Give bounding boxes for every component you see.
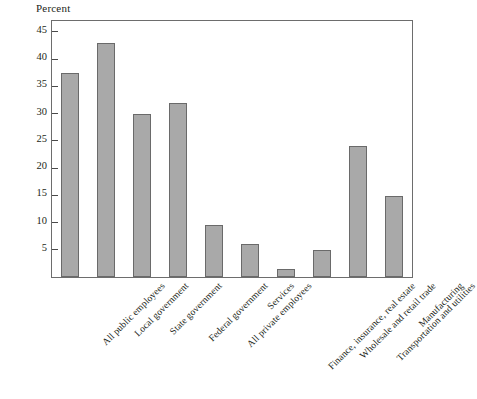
bar [241,244,259,277]
bar [205,225,223,277]
bar-slot [160,21,196,277]
bar [385,196,403,277]
bar-slot [376,21,412,277]
bar [61,73,79,277]
y-tick-label: 20 [37,160,48,171]
y-tick-label: 40 [37,51,48,62]
y-tick-label: 30 [37,106,48,117]
bar-slot [340,21,376,277]
y-tick-label: 35 [37,78,48,89]
bars-container [52,21,412,277]
y-tick-label: 45 [37,24,48,35]
y-tick-label: 10 [37,215,48,226]
bar [97,43,115,277]
y-tick-label: 25 [37,133,48,144]
bar-slot [232,21,268,277]
bar-slot [304,21,340,277]
bar-slot [268,21,304,277]
y-tick-label: 5 [42,242,47,253]
bar [349,146,367,277]
bar-slot [88,21,124,277]
bar-slot [52,21,88,277]
bar [133,114,151,277]
bar [277,269,295,277]
y-axis-unit-label: Percent [36,2,70,14]
bar [313,250,331,277]
bar [169,103,187,277]
y-tick-label: 15 [37,187,48,198]
bar-slot [124,21,160,277]
bar-slot [196,21,232,277]
plot-area: 51015202530354045 [51,20,413,278]
x-axis-category-labels: All public employeesLocal governmentStat… [51,278,413,398]
